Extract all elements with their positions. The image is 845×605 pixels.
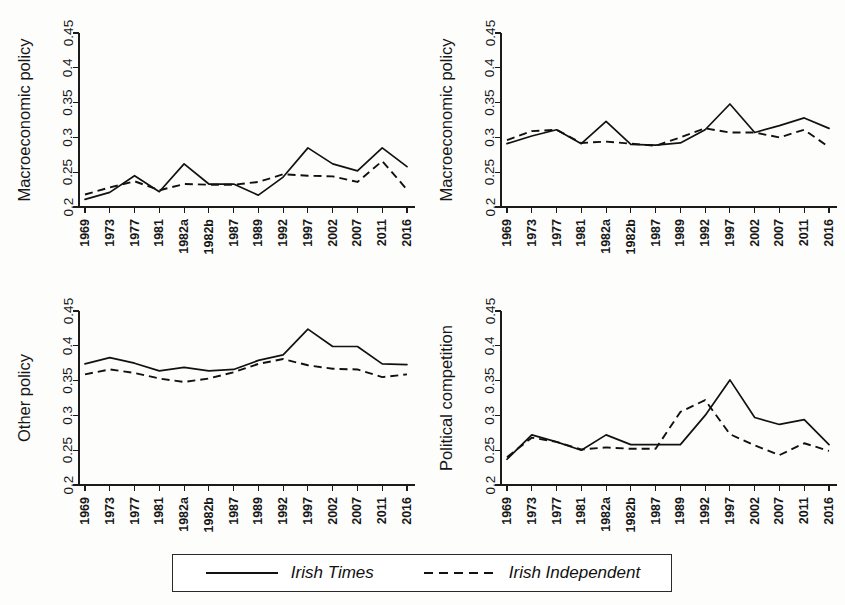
y-tick-label: 0.25 (61, 437, 76, 463)
chart-political-competition: 0.20.250.30.350.40.451969197319771981198… (422, 278, 845, 540)
y-tick-label: 0.4 (483, 336, 498, 355)
panel-macro-policy-left: 0.20.250.30.350.40.451969197319771981198… (0, 0, 423, 280)
legend-label-irish-times: Irish Times (291, 563, 374, 583)
panel-other-policy: 0.20.250.30.350.40.451969197319771981198… (0, 278, 423, 540)
legend-entry-irish-times: Irish Times (204, 563, 374, 583)
y-tick-label: 0.35 (61, 367, 76, 393)
x-tick-label: 1969 (500, 497, 514, 525)
x-tick-label: 1982b (624, 497, 638, 533)
x-tick-label: 2007 (350, 219, 364, 247)
x-tick-label: 1969 (78, 497, 92, 525)
x-tick-label: 2002 (748, 497, 762, 525)
x-tick-label: 2011 (375, 497, 389, 524)
solid-line-icon (204, 567, 280, 579)
x-tick-label: 2016 (400, 497, 414, 525)
x-tick-label: 1992 (698, 219, 712, 247)
x-tick-label: 1973 (525, 497, 539, 525)
x-tick-label: 1987 (227, 219, 241, 247)
x-tick-label: 2002 (748, 219, 762, 247)
x-tick-label: 1997 (301, 219, 315, 247)
x-tick-label: 1977 (550, 219, 564, 247)
y-axis-title: Political competition (437, 325, 455, 471)
y-tick-label: 0.3 (483, 406, 498, 425)
y-tick-label: 0.35 (483, 367, 498, 393)
y-tick-label: 0.4 (61, 336, 76, 355)
legend-row: Irish Times Irish Independent (173, 555, 671, 591)
y-tick-label: 0.2 (61, 198, 76, 217)
x-tick-label: 1981 (152, 497, 166, 525)
x-tick-label: 1987 (649, 497, 663, 525)
y-tick-label: 0.45 (483, 298, 498, 324)
x-tick-label: 2016 (822, 497, 836, 525)
y-axis-title: Other policy (15, 353, 33, 442)
y-tick-label: 0.3 (61, 128, 76, 147)
x-tick-label: 2011 (375, 219, 389, 246)
x-tick-label: 1973 (525, 219, 539, 247)
x-tick-label: 1997 (723, 219, 737, 247)
x-tick-label: 1989 (673, 497, 687, 525)
y-tick-label: 0.4 (61, 58, 76, 77)
x-tick-label: 2016 (822, 219, 836, 247)
legend-entry-irish-independent: Irish Independent (422, 563, 640, 583)
x-tick-label: 1989 (673, 219, 687, 247)
y-tick-label: 0.2 (61, 476, 76, 495)
x-tick-label: 2007 (772, 497, 786, 525)
y-axis-title: Macroeconomic policy (437, 38, 455, 202)
dashed-line-icon (422, 567, 498, 579)
x-tick-label: 1982b (624, 219, 638, 255)
y-tick-label: 0.35 (61, 89, 76, 115)
y-tick-label: 0.25 (483, 437, 498, 463)
y-tick-label: 0.25 (483, 159, 498, 185)
y-tick-label: 0.3 (61, 406, 76, 425)
x-tick-label: 1982a (599, 218, 613, 254)
x-tick-label: 1982b (202, 497, 216, 533)
panel-political-competition: 0.20.250.30.350.40.451969197319771981198… (422, 278, 845, 540)
y-axis-title: Macroeconomic policy (15, 38, 33, 202)
x-tick-label: 2002 (326, 219, 340, 247)
x-tick-label: 1982a (177, 496, 191, 532)
series-line-irish-times (85, 329, 407, 371)
x-tick-label: 1997 (723, 497, 737, 525)
y-tick-label: 0.25 (61, 159, 76, 185)
x-tick-label: 1982a (177, 218, 191, 254)
y-tick-label: 0.45 (483, 20, 498, 46)
x-tick-label: 1969 (500, 219, 514, 247)
x-tick-label: 1973 (103, 497, 117, 525)
x-tick-label: 1969 (78, 219, 92, 247)
y-tick-label: 0.2 (483, 198, 498, 217)
series-line-irish-independent (507, 400, 829, 457)
panel-macro-policy-right: 0.20.250.30.350.40.451969197319771981198… (422, 0, 845, 280)
x-tick-label: 1973 (103, 219, 117, 247)
series-line-irish-times (85, 148, 407, 200)
y-tick-label: 0.45 (61, 20, 76, 46)
figure-canvas: 0.20.250.30.350.40.451969197319771981198… (0, 0, 845, 605)
x-tick-label: 1977 (550, 497, 564, 525)
y-tick-label: 0.3 (483, 128, 498, 147)
series-line-irish-times (507, 104, 829, 145)
x-tick-label: 2002 (326, 497, 340, 525)
x-tick-label: 2007 (350, 497, 364, 525)
series-line-irish-times (507, 380, 829, 459)
y-tick-label: 0.2 (483, 476, 498, 495)
x-tick-label: 1989 (251, 497, 265, 525)
chart-other-policy: 0.20.250.30.350.40.451969197319771981198… (0, 278, 423, 540)
x-tick-label: 1992 (276, 497, 290, 525)
x-tick-label: 1989 (251, 219, 265, 247)
x-tick-label: 1992 (276, 219, 290, 247)
x-tick-label: 2011 (797, 497, 811, 524)
x-tick-label: 1987 (649, 219, 663, 247)
x-tick-label: 1997 (301, 497, 315, 525)
chart-macro-policy-left: 0.20.250.30.350.40.451969197319771981198… (0, 0, 423, 280)
x-tick-label: 1981 (574, 219, 588, 247)
x-tick-label: 1981 (152, 219, 166, 247)
legend: Irish Times Irish Independent (172, 554, 672, 592)
x-tick-label: 1987 (227, 497, 241, 525)
legend-label-irish-independent: Irish Independent (509, 563, 640, 583)
x-tick-label: 1992 (698, 497, 712, 525)
x-tick-label: 2011 (797, 219, 811, 246)
x-tick-label: 1977 (128, 219, 142, 247)
x-tick-label: 2007 (772, 219, 786, 247)
x-tick-label: 2016 (400, 219, 414, 247)
x-tick-label: 1977 (128, 497, 142, 525)
y-tick-label: 0.45 (61, 298, 76, 324)
